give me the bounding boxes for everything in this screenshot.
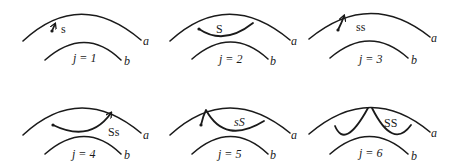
panel-j3: ss a b j = 3 [309,13,437,67]
arc-b-label: b [411,53,417,67]
arc-b-label: b [270,54,276,68]
arc-a-label: a [431,126,437,140]
arc-b-label: b [411,149,417,163]
trajectory-diagram: s a b j = 1 S a b j = 2 ss a b j = 3 Ss … [0,0,457,166]
trajectory-S [199,23,253,36]
arc-a-label: a [291,128,297,142]
j-label: j = 2 [217,52,242,66]
trajectory-Ss [53,113,111,132]
outer-arc-a [170,14,290,41]
trajectory-label: ss [356,20,366,34]
trajectory-SS-left [335,108,368,135]
arc-a-label: a [143,34,149,48]
j-label: j = 6 [357,146,382,160]
panel-j6: SS a b j = 6 [309,107,437,163]
trajectory-label: SS [384,116,397,130]
j-label: j = 5 [216,147,241,161]
arc-b-label: b [124,54,130,68]
trajectory-sS [201,110,264,131]
outer-arc-a [309,107,430,134]
panel-j4: Ss a b j = 4 [23,108,149,162]
arc-b-label: b [270,148,276,162]
j-label: j = 1 [71,51,96,65]
panel-j1: s a b j = 1 [23,14,149,68]
arc-b-label: b [124,148,130,162]
j-label: j = 4 [70,147,95,161]
outer-arc-a [309,13,430,39]
trajectory-label: sS [234,115,245,129]
panel-j2: S a b j = 2 [170,14,297,68]
panel-j5: sS a b j = 5 [170,108,297,162]
trajectory-label: S [216,22,223,36]
arc-a-label: a [143,128,149,142]
j-label: j = 3 [357,52,382,66]
start-point [51,123,54,126]
outer-arc-a [23,14,141,41]
trajectory-label: s [61,22,66,36]
start-point [197,27,200,30]
start-point [199,123,202,126]
arc-a-label: a [291,34,297,48]
start-point [50,29,53,32]
trajectory-label: Ss [108,125,120,139]
trajectory-ss [338,16,344,30]
start-point [336,28,339,31]
arc-a-label: a [431,31,437,45]
